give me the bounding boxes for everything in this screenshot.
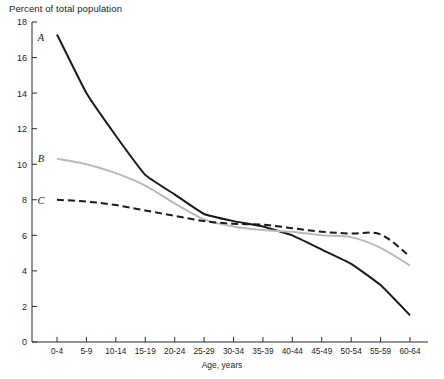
y-tick-label: 18 [17, 17, 27, 27]
x-tick-label: 50-54 [341, 346, 363, 356]
series-line-a [57, 34, 410, 315]
y-tick-label: 0 [22, 337, 27, 347]
y-tick-label: 2 [22, 302, 27, 312]
series-label-a: A [37, 32, 45, 43]
x-axis-ticks: 0-45-910-1415-1920-2425-2930-3435-3940-4… [51, 337, 421, 356]
y-tick-label: 8 [22, 195, 27, 205]
x-tick-label: 40-44 [282, 346, 304, 356]
y-axis-ticks: 024681012141618 [17, 17, 37, 347]
series-inline-labels: ABC [37, 32, 46, 206]
x-tick-label: 0-4 [51, 346, 63, 356]
x-tick-label: 60-64 [399, 346, 421, 356]
series-label-c: C [37, 195, 45, 206]
x-tick-label: 45-49 [311, 346, 333, 356]
x-tick-label: 35-39 [252, 346, 274, 356]
chart-series [57, 34, 410, 315]
x-axis-label: Age, years [0, 360, 444, 370]
series-line-c [57, 200, 410, 257]
x-tick-label: 25-29 [193, 346, 215, 356]
y-tick-label: 4 [22, 266, 27, 276]
y-tick-label: 12 [17, 124, 27, 134]
chart-figure: Percent of total population 024681012141… [0, 0, 444, 379]
y-tick-label: 16 [17, 53, 27, 63]
x-tick-label: 5-9 [80, 346, 92, 356]
x-tick-label: 55-59 [370, 346, 392, 356]
x-tick-label: 20-24 [164, 346, 186, 356]
line-chart-plot: 024681012141618 0-45-910-1415-1920-2425-… [0, 0, 444, 379]
x-tick-label: 15-19 [135, 346, 157, 356]
x-tick-label: 10-14 [105, 346, 127, 356]
chart-axes [32, 22, 428, 342]
y-tick-label: 14 [17, 89, 27, 99]
series-line-b [57, 159, 410, 266]
y-tick-label: 6 [22, 231, 27, 241]
series-label-b: B [38, 153, 45, 164]
y-tick-label: 10 [17, 160, 27, 170]
x-tick-label: 30-34 [223, 346, 245, 356]
